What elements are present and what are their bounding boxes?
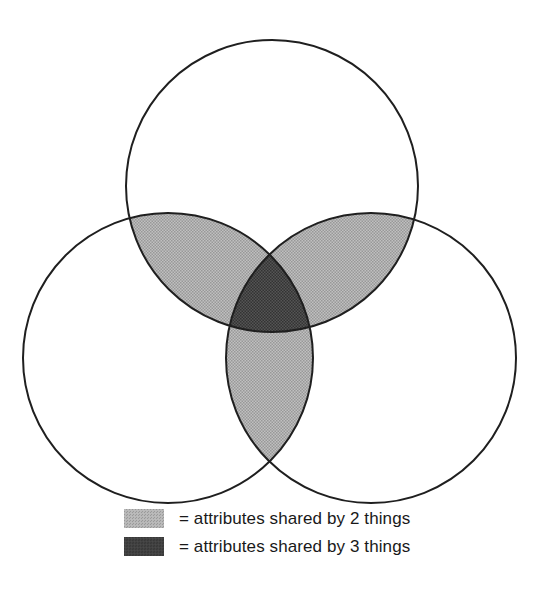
legend-label-shared-by-2: = attributes shared by 2 things [179, 509, 410, 528]
legend-swatch-shared-by-2 [124, 509, 164, 528]
venn-diagram-page: = attributes shared by 2 things = attrib… [0, 0, 542, 600]
legend-row-shared-by-3: = attributes shared by 3 things [124, 537, 410, 556]
legend: = attributes shared by 2 things = attrib… [124, 509, 410, 565]
legend-label-shared-by-3: = attributes shared by 3 things [179, 537, 410, 556]
legend-swatch-shared-by-3 [124, 537, 164, 556]
legend-row-shared-by-2: = attributes shared by 2 things [124, 509, 410, 528]
